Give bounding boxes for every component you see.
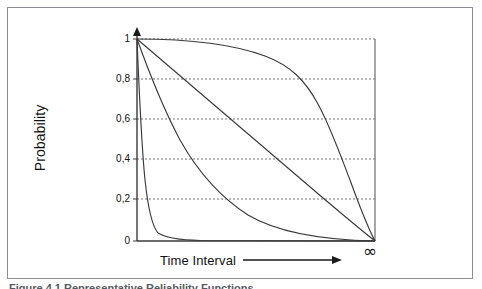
infinity-symbol: ∞	[363, 243, 377, 260]
y-tick-label-0.2: 0,2	[104, 193, 130, 204]
gridlines	[137, 39, 375, 199]
curve-linear-decay	[137, 39, 375, 241]
y-axis-title: Probability	[32, 78, 48, 198]
x-axis-direction-arrow-icon	[243, 256, 342, 264]
x-axis-title: Time Interval	[160, 253, 236, 268]
y-tick-label-0.6: 0,6	[104, 113, 130, 124]
y-tick-label-0: 0	[104, 235, 130, 246]
y-tick-label-1: 1	[104, 33, 130, 44]
figure-caption: Figure 4.1 Representative Reliability Fu…	[9, 282, 479, 289]
reliability-chart	[0, 0, 482, 289]
y-axis-arrow-icon	[133, 27, 141, 36]
plot-frame	[137, 34, 375, 241]
figure-page: 1 0,8 0,6 0,4 0,2 0 Probability Time Int…	[0, 0, 482, 289]
y-tick-label-0.4: 0,4	[104, 153, 130, 164]
y-tick-label-0.8: 0,8	[104, 73, 130, 84]
